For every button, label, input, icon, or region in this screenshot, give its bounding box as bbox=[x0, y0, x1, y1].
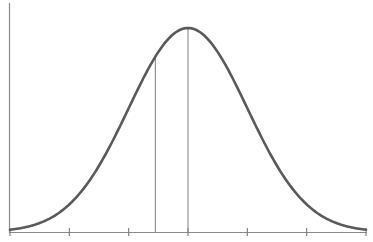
bell-curve-chart bbox=[0, 0, 373, 242]
vertical-marker-lines bbox=[155, 28, 188, 232]
